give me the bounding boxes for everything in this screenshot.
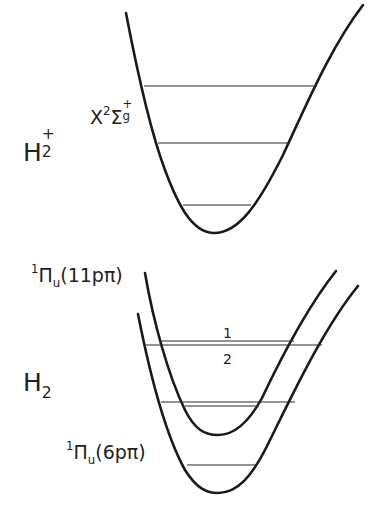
- orbital-config: (11pπ): [60, 264, 123, 286]
- species-base: H: [23, 368, 42, 397]
- species-charge: +: [42, 127, 55, 143]
- ion-species-label: H+2: [23, 136, 56, 165]
- state-symbol: Π: [74, 441, 88, 463]
- rydberg-6ppi-label: 1Πu(6pπ): [66, 443, 146, 462]
- state-letter: X: [90, 106, 103, 128]
- state-symmetry: u: [53, 276, 60, 290]
- rydberg-11ppi-label: 1Πu(11pπ): [31, 266, 123, 285]
- multiplicity: 1: [31, 262, 39, 276]
- state-symbol: Σ: [111, 106, 123, 128]
- state-symbol: Π: [39, 264, 53, 286]
- rydberg-6ppi-curve: [138, 286, 358, 493]
- state-multiplicity: 2: [103, 104, 111, 118]
- ion-ground-state-curve: [126, 5, 363, 233]
- species-subscript: 2: [42, 145, 52, 161]
- species-subscript: 2: [42, 384, 52, 402]
- rydberg-11ppi-curve: [145, 271, 336, 435]
- state-symmetry: g: [123, 111, 130, 123]
- level-marker-1: 1: [223, 326, 232, 340]
- state-symmetry: u: [88, 453, 95, 467]
- ion-state-label: X2Σ+g: [90, 105, 133, 127]
- species-scripts: +2: [42, 136, 56, 161]
- species-base: H: [23, 138, 42, 167]
- potential-energy-diagram: [0, 0, 390, 506]
- orbital-config: (6pπ): [95, 441, 145, 463]
- multiplicity: 1: [66, 439, 74, 453]
- state-scripts: +g: [123, 105, 133, 124]
- level-marker-2: 2: [223, 352, 232, 366]
- neutral-species-label: H2: [23, 370, 52, 395]
